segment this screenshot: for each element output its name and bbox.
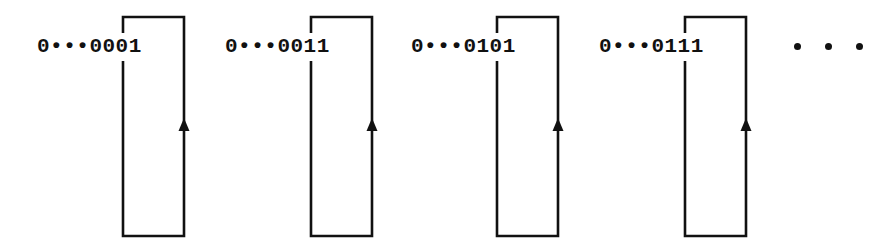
state-label: 0•••0111	[598, 33, 705, 61]
ellipsis-icon	[794, 43, 863, 50]
state-label: 0•••0001	[36, 33, 143, 61]
ellipsis-dot	[825, 43, 832, 50]
figure-canvas: 0•••0001 0•••0011 0•••0101 0•••0111	[0, 0, 889, 252]
state-label: 0•••0101	[410, 33, 517, 61]
ellipsis-dot	[794, 43, 801, 50]
ellipsis-dot	[856, 43, 863, 50]
state-label: 0•••0011	[224, 33, 331, 61]
